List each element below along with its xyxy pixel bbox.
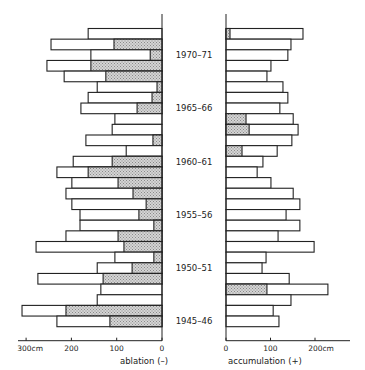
accumulation-bar (226, 305, 273, 316)
accumulation-bar (226, 50, 288, 61)
ablation-accumulation-chart: 300cm20010000100200cmablation (–)accumul… (0, 0, 365, 370)
ablation-shaded-segment (110, 316, 162, 327)
year-label: 1970–71 (176, 50, 213, 60)
accumulation-bar (226, 220, 300, 231)
accumulation-bar (226, 39, 291, 50)
ablation-shaded-segment (154, 252, 162, 263)
ablation-shaded-segment (137, 103, 162, 114)
ablation-bar (88, 92, 162, 103)
accumulation-shaded-segment (226, 124, 249, 135)
ablation-bar (88, 29, 162, 40)
ablation-shaded-segment (66, 305, 162, 316)
accumulation-bar (226, 188, 293, 199)
ablation-shaded-segment (154, 220, 162, 231)
year-label: 1960–61 (176, 157, 213, 167)
ablation-shaded-segment (91, 60, 162, 71)
ablation-shaded-segment (132, 263, 162, 274)
ablation-axis-label: ablation (–) (120, 356, 168, 366)
ablation-tick-label: 0 (160, 344, 165, 353)
ablation-tick-label: 100 (110, 344, 125, 353)
accumulation-bar (226, 135, 292, 146)
accumulation-shaded-segment (226, 284, 267, 295)
accumulation-shaded-segment (226, 146, 242, 157)
ablation-shaded-segment (106, 71, 162, 82)
accumulation-bar (226, 60, 271, 71)
ablation-bar (97, 295, 162, 306)
ablation-bar (126, 146, 162, 157)
accumulation-tick-label: 100 (263, 344, 278, 353)
year-label: 1955–56 (176, 210, 213, 220)
ablation-shaded-segment (112, 156, 162, 167)
accumulation-bar (226, 210, 286, 221)
accumulation-bar (226, 156, 263, 167)
accumulation-bar (226, 273, 289, 284)
ablation-bar (101, 284, 162, 295)
accumulation-bars (226, 29, 328, 327)
ablation-shaded-segment (103, 273, 162, 284)
ablation-shaded-segment (114, 39, 162, 50)
year-labels: 1970–711965–661960–611955–561950–511945–… (176, 50, 213, 326)
accumulation-bar (226, 242, 314, 253)
accumulation-bar (226, 103, 280, 114)
ablation-shaded-segment (152, 92, 162, 103)
ablation-bar (80, 220, 162, 231)
ablation-shaded-segment (133, 188, 162, 199)
accumulation-bar (226, 167, 257, 178)
ablation-shaded-segment (139, 210, 162, 221)
ablation-shaded-segment (157, 82, 162, 93)
accumulation-bar (226, 263, 262, 274)
accumulation-bar (226, 295, 291, 306)
ablation-shaded-segment (88, 167, 162, 178)
accumulation-shaded-segment (226, 29, 230, 40)
accumulation-bar (226, 178, 271, 189)
ablation-shaded-segment (146, 199, 162, 210)
accumulation-bar (226, 252, 266, 263)
accumulation-shaded-segment (226, 114, 246, 125)
ablation-shaded-segment (153, 135, 162, 146)
accumulation-bar (226, 231, 278, 242)
ablation-bar (86, 135, 162, 146)
ablation-shaded-segment (118, 231, 162, 242)
ablation-shaded-segment (150, 50, 162, 61)
year-label: 1950–51 (176, 263, 213, 273)
ablation-tick-label: 200 (64, 344, 79, 353)
accumulation-bar (226, 82, 283, 93)
accumulation-tick-label: 200cm (308, 344, 334, 353)
ablation-shaded-segment (124, 242, 162, 253)
ablation-bars (22, 29, 162, 327)
accumulation-bar (226, 316, 279, 327)
ablation-bar (97, 82, 162, 93)
ablation-bar (115, 114, 162, 125)
accumulation-axis-label: accumulation (+) (228, 356, 302, 366)
year-label: 1965–66 (176, 103, 213, 113)
accumulation-bar (226, 199, 300, 210)
accumulation-bar (226, 71, 267, 82)
accumulation-bar (226, 92, 288, 103)
year-label: 1945–46 (176, 316, 213, 326)
ablation-tick-label: 300cm (17, 344, 43, 353)
accumulation-tick-label: 0 (224, 344, 229, 353)
accumulation-bar (226, 29, 303, 40)
ablation-bar (112, 124, 162, 135)
ablation-shaded-segment (118, 178, 162, 189)
